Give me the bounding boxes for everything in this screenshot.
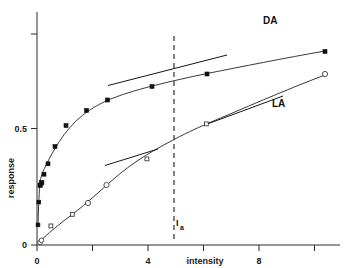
data-points-da	[36, 50, 327, 227]
x-tick-label-4: 4	[145, 256, 150, 266]
series-label-da: DA	[263, 15, 277, 26]
data-point-da	[42, 172, 46, 176]
x-axis-ticks	[37, 245, 315, 251]
curve-da	[38, 51, 325, 225]
data-point-da	[46, 162, 50, 166]
data-point-la	[104, 182, 109, 187]
data-point-da	[85, 109, 89, 113]
data-point-da	[323, 50, 327, 54]
x-tick-label-8: 8	[256, 256, 261, 266]
data-point-da	[36, 223, 40, 227]
data-point-da	[40, 181, 44, 185]
reference-label-ia: I	[176, 218, 179, 228]
x-axis-title: intensity	[186, 256, 223, 266]
data-point-da	[53, 145, 57, 149]
y-tick-label-0: 0	[22, 240, 27, 250]
data-point-la	[71, 213, 75, 217]
y-tick-label-0-5: 0.5	[14, 124, 27, 134]
data-point-la	[49, 224, 53, 228]
y-axis-title: response	[6, 158, 16, 198]
tangent-da	[108, 55, 227, 86]
x-tick-label-0: 0	[34, 256, 39, 266]
data-point-la	[205, 122, 209, 126]
data-point-da	[150, 85, 154, 89]
series-label-la: LA	[272, 98, 285, 109]
y-axis-ticks	[31, 34, 37, 245]
data-point-da	[205, 72, 209, 76]
chart-figure: 0 0.5 0 4 8 response intensity I a	[0, 0, 347, 268]
chart-svg: 0 0.5 0 4 8 response intensity I a	[0, 0, 347, 268]
data-point-da	[37, 200, 41, 204]
data-point-la	[85, 200, 90, 205]
data-point-la	[145, 157, 149, 161]
reference-label-ia-subscript: a	[180, 224, 184, 231]
tangent-la-lower	[105, 149, 158, 166]
data-point-la	[39, 238, 44, 243]
data-point-la	[322, 71, 327, 76]
data-point-da	[106, 98, 110, 102]
data-point-da	[64, 124, 68, 128]
